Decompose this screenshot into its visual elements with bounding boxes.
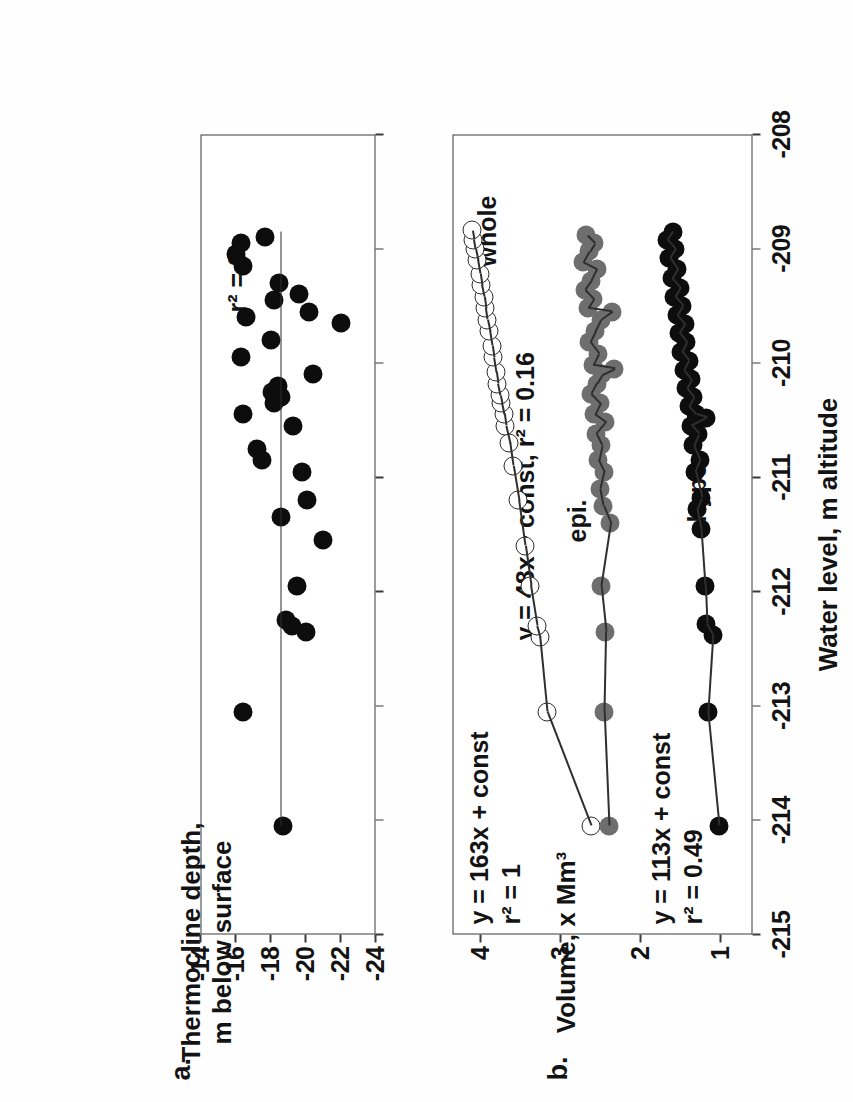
y-tick-label: 2: [626, 946, 655, 1038]
figure-page: a. Thermocline depth, m below surface r²…: [0, 0, 853, 1102]
data-point: [297, 490, 316, 509]
x-tick-label: -212: [766, 567, 795, 615]
y-tick-mark: [339, 934, 340, 942]
y-tick-label: -20: [291, 946, 320, 1038]
data-point: [233, 405, 252, 424]
x-tick-label: -208: [766, 110, 795, 158]
x-tick-label: -215: [766, 910, 795, 958]
data-point: [287, 576, 306, 595]
x-tick-mark: [752, 362, 760, 363]
data-point: [236, 307, 255, 326]
panel-b-fit-hypo-equation: y = 113x + const: [646, 732, 675, 924]
y-tick-mark: [269, 934, 270, 942]
panel-b-fit-whole-equation: y = 163x + const: [464, 731, 493, 924]
data-point: [261, 330, 280, 349]
data-point: [299, 302, 318, 321]
data-point: [269, 273, 288, 292]
y-tick-label: -18: [256, 946, 285, 1038]
panel-b: b. Volume, x Mm³ whole epi. hypo. y = 16…: [420, 0, 853, 1102]
y-tick-mark: [719, 934, 720, 942]
x-tick-mark: [375, 248, 383, 249]
y-tick-label: -16: [221, 946, 250, 1038]
data-point: [273, 816, 292, 835]
x-tick-label: -211: [766, 454, 795, 501]
panel-a: a. Thermocline depth, m below surface r²…: [0, 0, 420, 1102]
y-tick-label: -14: [186, 946, 215, 1038]
data-point: [331, 313, 350, 332]
x-tick-mark: [752, 819, 760, 820]
x-tick-mark: [752, 705, 760, 706]
y-tick-mark: [559, 934, 560, 942]
data-point: [276, 610, 295, 629]
data-point: [289, 285, 308, 304]
data-point: [268, 376, 287, 395]
y-tick-label: -24: [361, 946, 390, 1038]
x-tick-mark: [375, 705, 383, 706]
panel-b-fit-whole-r2: r² = 1: [496, 864, 525, 924]
x-tick-mark: [375, 362, 383, 363]
x-tick-mark: [752, 933, 760, 934]
fit-line-thermocline: [280, 231, 282, 825]
x-tick-label: -214: [766, 796, 795, 844]
y-tick-label: 1: [706, 946, 735, 1038]
x-tick-mark: [752, 590, 760, 591]
y-tick-mark: [234, 934, 235, 942]
x-tick-mark: [752, 133, 760, 134]
y-tick-label: 4: [466, 946, 495, 1038]
panel-b-fit-hypo-r2: r² = 0.49: [678, 829, 707, 924]
x-tick-mark: [375, 590, 383, 591]
data-point: [283, 416, 302, 435]
x-tick-mark: [752, 248, 760, 249]
y-tick-label: -22: [326, 946, 355, 1038]
y-tick-mark: [639, 934, 640, 942]
data-point: [313, 530, 332, 549]
panel-b-y-axis-title: Volume, x Mm³: [550, 772, 581, 1102]
x-tick-mark: [375, 476, 383, 477]
data-point: [255, 227, 274, 246]
x-tick-mark: [375, 133, 383, 134]
data-point: [231, 347, 250, 366]
data-point: [292, 462, 311, 481]
x-tick-label: -209: [766, 224, 795, 272]
x-axis-title: Water level, m altitude: [812, 334, 843, 734]
data-point: [233, 702, 252, 721]
x-tick-label: -210: [766, 339, 795, 387]
y-tick-mark: [374, 934, 375, 942]
x-tick-mark: [375, 933, 383, 934]
x-tick-mark: [752, 476, 760, 477]
panel-a-y-title-line2: m below surface: [206, 772, 237, 1102]
rotated-figure: a. Thermocline depth, m below surface r²…: [0, 0, 853, 1102]
y-tick-mark: [479, 934, 480, 942]
x-tick-mark: [375, 819, 383, 820]
x-tick-label: -213: [766, 681, 795, 729]
y-tick-mark: [199, 934, 200, 942]
y-tick-label: 3: [546, 946, 575, 1038]
data-point: [247, 439, 266, 458]
data-point: [303, 365, 322, 384]
panel-a-y-axis-title: Thermocline depth, m below surface: [175, 772, 236, 1102]
data-point: [231, 233, 250, 252]
panel-b-label-epi: epi.: [562, 499, 591, 542]
y-tick-mark: [304, 934, 305, 942]
